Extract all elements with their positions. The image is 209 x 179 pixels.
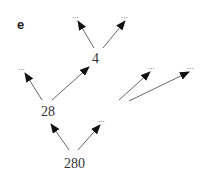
edge-4-to-ellipsis-left xyxy=(78,21,94,48)
node-28: 28 xyxy=(41,104,55,119)
node-4: 4 xyxy=(92,51,99,66)
ellipsis-node-left: ... xyxy=(18,62,25,72)
ellipsis-node-right-1: ... xyxy=(148,61,155,71)
panel-label: e xyxy=(17,17,24,32)
edge-280-to-ellipsis xyxy=(78,125,100,150)
ellipsis-node-bottom: ... xyxy=(98,114,105,124)
ellipsis-node-top-right: ... xyxy=(121,10,128,20)
edge-unlabeled-to-ellipsis-1 xyxy=(119,72,150,100)
node-280: 280 xyxy=(64,156,85,171)
edge-28-to-4 xyxy=(52,67,89,100)
edge-unlabeled-to-ellipsis-2 xyxy=(129,72,189,101)
edge-280-to-28 xyxy=(51,124,69,150)
ellipsis-node-top-left: ... xyxy=(72,10,79,20)
edge-4-to-ellipsis-right xyxy=(103,21,125,48)
edge-28-to-ellipsis xyxy=(25,73,42,100)
tree-diagram: e ... ... ... ... ... ... 4 28 280 xyxy=(0,0,209,179)
ellipsis-node-right-2: ... xyxy=(187,61,194,71)
